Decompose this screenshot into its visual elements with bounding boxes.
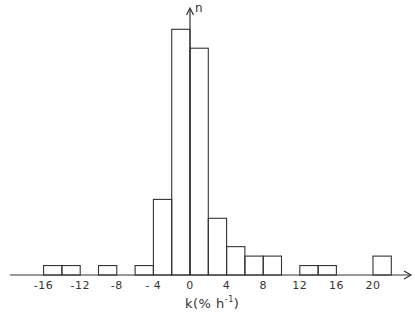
- x-tick-label: 0: [186, 279, 194, 292]
- x-tick-label: 4: [223, 279, 231, 292]
- x-tick-label: -8: [111, 279, 123, 292]
- x-axis-title-close: ): [234, 296, 240, 311]
- histogram-bar: [62, 266, 80, 275]
- histogram-bar: [172, 29, 190, 275]
- histogram-bar: [245, 256, 263, 275]
- histogram-bar: [373, 256, 391, 275]
- histogram-bar: [99, 266, 117, 275]
- x-tick-label: -12: [70, 279, 89, 292]
- histogram-bars: [44, 29, 392, 275]
- histogram-bar: [227, 247, 245, 275]
- histogram-bar: [135, 266, 153, 275]
- x-tick-label: -16: [34, 279, 53, 292]
- x-axis-title: k(% h-1): [185, 295, 239, 311]
- x-tick-label: - 4: [145, 279, 161, 292]
- histogram-bar: [318, 266, 336, 275]
- x-tick-label: 16: [329, 279, 344, 292]
- y-axis-title: n: [195, 1, 203, 15]
- x-tick-label: 12: [292, 279, 307, 292]
- histogram-bar: [208, 218, 226, 275]
- x-tick-label: 8: [259, 279, 267, 292]
- histogram-bar: [300, 266, 318, 275]
- histogram-bar: [190, 48, 208, 275]
- x-tick-label: 20: [366, 279, 381, 292]
- histogram-bar: [263, 256, 281, 275]
- histogram-bar: [153, 199, 171, 275]
- x-axis-title-exponent: -1: [225, 295, 234, 304]
- histogram-chart: [0, 0, 415, 319]
- histogram-bar: [44, 266, 62, 275]
- x-axis-title-main: k(% h: [185, 296, 225, 311]
